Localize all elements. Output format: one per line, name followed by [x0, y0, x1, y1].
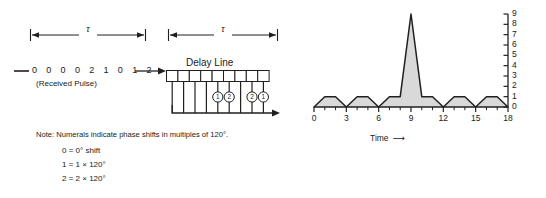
- y-tick-label: 0: [512, 101, 517, 111]
- received-pulse-lead-line: [14, 66, 30, 76]
- phase-legend-1: 1 = 1 × 120°: [62, 160, 106, 169]
- delay-line-cells: [167, 71, 270, 82]
- x-axis-arrow-icon: ⟶: [393, 133, 405, 143]
- waveform-area: [314, 14, 508, 107]
- phase-legend-2: 2 = 2 × 120°: [62, 174, 106, 183]
- phase-legend-0: 0 = 0° shift: [62, 146, 100, 155]
- x-axis-label-group: Time⟶: [370, 133, 405, 143]
- y-tick-label: 9: [512, 8, 517, 18]
- x-axis-ticks: [314, 107, 508, 112]
- y-tick-label: 7: [512, 29, 517, 39]
- delay-line-title: Delay Line: [186, 57, 233, 68]
- phase-circle-tap-9-label: 1: [262, 93, 266, 100]
- y-tick-label: 5: [512, 49, 517, 59]
- x-tick-label: 9: [401, 113, 421, 123]
- y-axis-ticks: [504, 14, 509, 107]
- x-tick-label: 6: [369, 113, 389, 123]
- pulse-compression-figure: τ τ 0 0 0 0 2 1 0 1 2 (Received Pulse) D…: [0, 0, 546, 198]
- phase-circle-tap-6-label: 2: [227, 93, 231, 100]
- phase-circle-tap-8-label: 2: [250, 93, 254, 100]
- delay-line-graphic: 1 2 2 1: [166, 70, 282, 120]
- y-tick-label: 3: [512, 70, 517, 80]
- input-arrow-icon: [135, 66, 167, 76]
- y-tick-label: 6: [512, 39, 517, 49]
- phase-note-text: Note: Numerals indicate phase shifts in …: [36, 130, 228, 139]
- x-tick-label: 0: [304, 113, 324, 123]
- y-tick-label: 4: [512, 60, 517, 70]
- received-pulse-caption: (Received Pulse): [36, 79, 97, 88]
- x-tick-label: 15: [466, 113, 486, 123]
- x-tick-label: 18: [498, 113, 518, 123]
- phase-circle-tap-5-label: 1: [216, 93, 220, 100]
- y-tick-label: 1: [512, 91, 517, 101]
- x-tick-label: 12: [433, 113, 453, 123]
- tau-label-left: τ: [28, 25, 148, 34]
- tau-label-right: τ: [166, 25, 280, 34]
- x-tick-label: 3: [336, 113, 356, 123]
- autocorrelation-chart: 0369121518 0123456789: [306, 8, 536, 133]
- y-tick-label: 2: [512, 80, 517, 90]
- y-tick-label: 8: [512, 18, 517, 28]
- x-axis-label: Time: [370, 133, 389, 143]
